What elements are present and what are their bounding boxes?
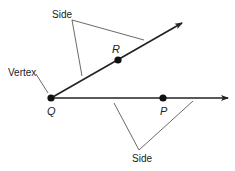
side-bottom-label: Side — [132, 153, 152, 164]
vertex-label: Vertex — [8, 67, 36, 78]
vertex-leader — [36, 74, 48, 93]
side-top-label: Side — [52, 9, 72, 20]
point-q-label: Q — [47, 105, 56, 117]
point-r-label: R — [112, 43, 120, 55]
side-top-leader — [72, 20, 144, 76]
side-bottom-leader — [114, 101, 193, 150]
point-q-dot — [47, 94, 54, 101]
point-p-dot — [159, 94, 166, 101]
diagram-canvas — [0, 0, 235, 171]
point-r-dot — [114, 56, 121, 63]
angle-diagram: Side Vertex Q R P Side — [0, 0, 235, 171]
point-p-label: P — [160, 105, 167, 117]
